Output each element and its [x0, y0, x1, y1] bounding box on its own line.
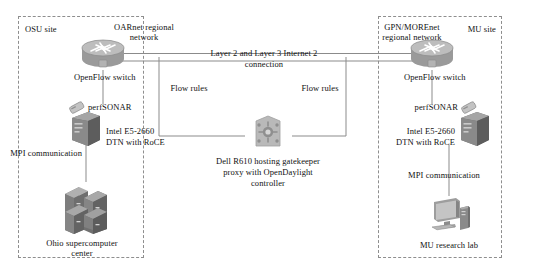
osu-dtn-label-line1: Intel E5-2660 — [106, 126, 154, 137]
osu-openflow-switch-label: OpenFlow switch — [74, 72, 136, 83]
osu-dtn-label-line2: DTN with RoCE — [106, 137, 165, 148]
ohio-supercomputer-label-line1: Ohio supercomputer — [46, 238, 117, 249]
mu-dtn-server-icon — [457, 110, 493, 148]
mu-research-lab-label: MU research lab — [420, 240, 478, 251]
mu-mpi-communication-label: MPI communication — [408, 170, 480, 181]
backbone-link-label-line1: Layer 2 and Layer 3 Internet 2 — [211, 48, 318, 59]
gatekeeper-label-line3: controller — [251, 178, 285, 189]
osu-mpi-communication-label: MPI communication — [10, 148, 82, 159]
mu-dtn-label-line2: DTN with RoCE — [396, 137, 455, 148]
osu-openflow-switch-icon — [76, 36, 130, 70]
backbone-link-label-line2: connection — [245, 59, 283, 70]
osu-dtn-server-icon — [68, 110, 104, 148]
osu-site-label: OSU site — [25, 24, 57, 35]
oarnet-network-label-line2: network — [130, 32, 159, 43]
gatekeeper-controller-icon — [251, 114, 285, 150]
gpn-morenet-network-label-line1: GPN/MOREnet — [384, 22, 439, 33]
network-diagram: OSU site OARnet regional network OpenFlo… — [0, 0, 534, 277]
mu-research-lab-computer-icon — [426, 196, 474, 238]
ohio-supercomputer-icon — [62, 182, 112, 234]
mu-site-label: MU site — [468, 24, 496, 35]
mu-dtn-label-line1: Intel E5-2660 — [407, 126, 455, 137]
mu-openflow-switch-label: OpenFlow switch — [404, 72, 466, 83]
mu-flow-rules-label: Flow rules — [301, 83, 338, 94]
oarnet-network-label-line1: OARnet regional — [114, 22, 174, 33]
gatekeeper-label-line2: proxy with OpenDaylight — [223, 167, 313, 178]
osu-flow-rules-label: Flow rules — [170, 83, 207, 94]
mu-perfsonar-label: perfSONAR — [415, 102, 458, 113]
gatekeeper-label-line1: Dell R610 hosting gatekeeper — [216, 156, 320, 167]
ohio-supercomputer-label-line2: center — [71, 248, 92, 259]
mu-openflow-switch-icon — [405, 36, 459, 70]
